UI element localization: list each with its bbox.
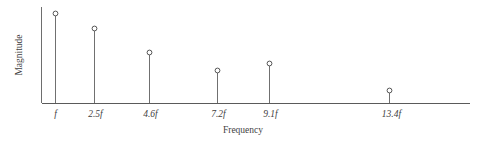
stem-marker: [147, 50, 152, 55]
stem-marker: [267, 61, 272, 66]
chart-canvas: f 2.5f 4.6f 7.2f 9.1f 13.4f Frequency Ma…: [0, 0, 484, 144]
stem-marker: [53, 11, 58, 16]
x-tick-label: f: [54, 109, 58, 119]
x-tick-label: 7.2f: [211, 109, 227, 119]
line-spectrum-chart: f 2.5f 4.6f 7.2f 9.1f 13.4f Frequency Ma…: [0, 0, 484, 144]
stem-point: [215, 68, 220, 103]
stem-marker: [92, 26, 97, 31]
x-tick-label: 9.1f: [263, 109, 279, 119]
stem-point: [267, 61, 272, 103]
stem-point: [147, 50, 152, 103]
stem-series: [53, 11, 392, 103]
x-tick-label: 4.6f: [143, 109, 159, 119]
stem-marker: [387, 88, 392, 93]
stem-point: [53, 11, 58, 103]
stem-point: [92, 26, 97, 103]
x-axis-ticks: [56, 97, 390, 103]
x-tick-label: 2.5f: [88, 109, 104, 119]
stem-marker: [215, 68, 220, 73]
y-axis-title: Magnitude: [14, 34, 24, 75]
x-axis-title: Frequency: [223, 125, 263, 135]
x-tick-labels: f 2.5f 4.6f 7.2f 9.1f 13.4f: [54, 109, 402, 119]
x-tick-label: 13.4f: [382, 109, 403, 119]
stem-point: [387, 88, 392, 103]
